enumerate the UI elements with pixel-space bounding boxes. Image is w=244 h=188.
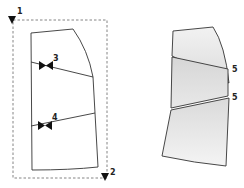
- point-2-label: 2: [110, 168, 116, 177]
- spread-top-label: 5: [232, 65, 238, 74]
- pattern-diagram: 1 2 3 4 5 5: [0, 0, 244, 188]
- slash-3-label: 3: [53, 54, 59, 63]
- skirt-outline: [31, 29, 98, 170]
- point-1-label: 1: [17, 7, 23, 16]
- point-2-marker-icon: [101, 173, 109, 181]
- original-pattern: 1 2 3 4: [8, 7, 116, 181]
- slash-4-label: 4: [52, 113, 58, 122]
- spread-bottom-label: 5: [232, 93, 238, 102]
- spread-pattern: 5 5: [162, 27, 238, 166]
